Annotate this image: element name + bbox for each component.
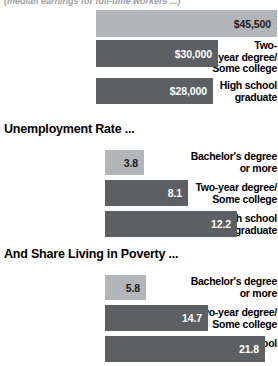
- row-label-line: year degree/: [218, 51, 277, 63]
- table-row: Bachelor's degree or more 5.8: [0, 275, 277, 305]
- row-label-line: Bachelor's degree: [191, 150, 277, 162]
- table-row: Two-year degree/ Some college 8.1: [0, 180, 277, 211]
- bar-value-label: 21.8: [239, 343, 265, 355]
- row-label-line: or more: [240, 287, 277, 299]
- table-row: Two-year degree/ Some college 14.7: [0, 305, 277, 336]
- table-row: Bachelor's degree or more 3.8: [0, 150, 277, 180]
- section-earnings: Bachelor's degree or more $45,500 Two- y…: [0, 10, 277, 110]
- bar-value-label: 8.1: [168, 187, 188, 199]
- bar-value-label: $30,000: [175, 48, 218, 60]
- bar-group-poverty: Bachelor's degree or more 5.8 Two-year d…: [0, 275, 277, 366]
- bar-unemployment-bachelors: 3.8: [105, 150, 144, 175]
- section-title-poverty: And Share Living in Poverty ...: [0, 247, 277, 261]
- section-poverty: And Share Living in Poverty ... Bachelor…: [0, 247, 277, 366]
- section-unemployment: Unemployment Rate ... Bachelor's degree …: [0, 122, 277, 242]
- row-label-line: Some college: [212, 193, 277, 205]
- bar-earnings-highschool: $28,000: [96, 78, 213, 104]
- table-row: High school 21.8: [0, 336, 277, 366]
- row-label: Two-year degree/ Some college: [176, 182, 277, 205]
- section-title-unemployment: Unemployment Rate ...: [0, 122, 277, 136]
- bar-value-label: 14.7: [182, 312, 208, 324]
- row-label-line: Some college: [212, 318, 277, 330]
- row-label-line: graduate: [235, 224, 277, 236]
- row-label: Bachelor's degree or more: [176, 151, 277, 174]
- table-row: Bachelor's degree or more $45,500: [0, 10, 277, 40]
- bar-poverty-highschool: 21.8: [105, 336, 265, 362]
- bar-value-label: $45,500: [234, 18, 277, 30]
- bar-earnings-twoyear: $30,000: [96, 40, 218, 67]
- row-label-line: Some college: [212, 62, 277, 74]
- table-row: Two- year degree/ Some college $30,000: [0, 40, 277, 78]
- bar-earnings-bachelors: $45,500: [96, 10, 277, 37]
- row-label: Bachelor's degree or more: [176, 276, 277, 299]
- bar-unemployment-highschool: 12.2: [105, 211, 237, 237]
- clipped-subtitle: (median earnings for full-time workers .…: [4, 0, 277, 6]
- table-row: High school graduate $28,000: [0, 78, 277, 110]
- bar-group-unemployment: Bachelor's degree or more 3.8 Two-year d…: [0, 150, 277, 242]
- bar-value-label: 12.2: [211, 218, 237, 230]
- row-label-line: Two-: [254, 39, 277, 51]
- table-row: High school graduate 12.2: [0, 211, 277, 242]
- bar-value-label: 3.8: [124, 157, 144, 169]
- bar-value-label: 5.8: [126, 282, 146, 294]
- bar-group-earnings: Bachelor's degree or more $45,500 Two- y…: [0, 10, 277, 110]
- bar-poverty-twoyear: 14.7: [105, 305, 208, 331]
- row-label-line: Two-year degree/: [195, 181, 277, 193]
- row-label-line: High school: [220, 79, 277, 91]
- bar-unemployment-twoyear: 8.1: [105, 180, 188, 206]
- row-label-line: or more: [240, 162, 277, 174]
- bar-value-label: $28,000: [170, 85, 213, 97]
- row-label-line: graduate: [235, 91, 277, 103]
- row-label-line: Bachelor's degree: [191, 275, 277, 287]
- bar-poverty-bachelors: 5.8: [105, 275, 146, 300]
